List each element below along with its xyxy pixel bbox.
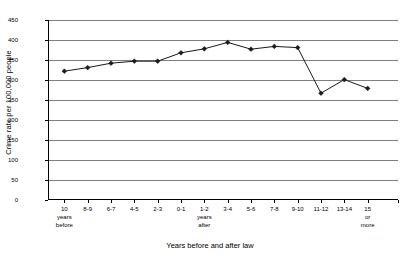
x-tick-mark <box>181 200 182 203</box>
gridline <box>49 160 398 161</box>
x-tick-mark <box>111 200 112 203</box>
y-tick-label: 350 <box>0 57 18 63</box>
x-tick-mark <box>368 200 369 203</box>
y-tick-label: 400 <box>0 37 18 43</box>
x-tick-mark <box>251 200 252 203</box>
gridline <box>49 100 398 101</box>
x-tick-mark <box>88 200 89 203</box>
x-tick-mark <box>274 200 275 203</box>
gridline <box>49 80 398 81</box>
y-tick-label: 250 <box>0 97 18 103</box>
crime-rate-line-chart: Crime rate per 100,000 people 0501001502… <box>0 0 420 264</box>
gridline <box>49 120 398 121</box>
gridline <box>49 140 398 141</box>
x-tick-mark <box>158 200 159 203</box>
y-tick-label: 150 <box>0 137 18 143</box>
y-tick-mark <box>45 200 48 201</box>
x-tick-mark <box>344 200 345 203</box>
y-tick-label: 100 <box>0 157 18 163</box>
y-tick-label: 450 <box>0 17 18 23</box>
gridline <box>49 180 398 181</box>
x-tick-label: 15ormore <box>348 205 388 229</box>
gridline <box>49 60 398 61</box>
y-tick-label: 200 <box>0 117 18 123</box>
y-tick-label: 0 <box>0 197 18 203</box>
x-tick-mark <box>228 200 229 203</box>
x-axis-title: Years before and after law <box>0 241 420 250</box>
x-tick-mark <box>64 200 65 203</box>
x-axis-end-tick <box>398 200 399 203</box>
plot-area <box>48 20 398 200</box>
y-tick-label: 300 <box>0 77 18 83</box>
x-tick-mark <box>298 200 299 203</box>
x-tick-mark <box>134 200 135 203</box>
x-tick-mark <box>204 200 205 203</box>
x-tick-mark <box>321 200 322 203</box>
gridline <box>49 40 398 41</box>
y-tick-label: 50 <box>0 177 18 183</box>
gridline <box>49 20 398 21</box>
